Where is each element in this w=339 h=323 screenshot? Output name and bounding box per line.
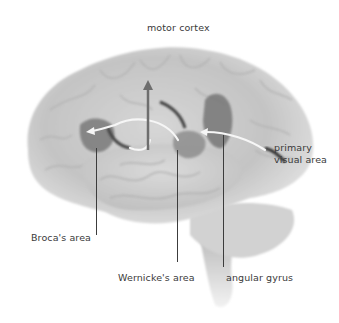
label-primary-visual-area-line1: primary (274, 142, 334, 154)
leader-line-wernickes-area (177, 150, 178, 262)
label-primary-visual-area: primary visual area (274, 142, 334, 166)
label-primary-visual-area-line2: visual area (274, 154, 334, 166)
label-angular-gyrus: angular gyrus (226, 272, 293, 283)
brain-diagram: motor cortex primary visual area Broca's… (0, 0, 339, 323)
label-wernickes-area: Wernicke's area (118, 272, 195, 283)
label-brocas-area: Broca's area (31, 232, 91, 243)
leader-line-brocas-area (96, 148, 97, 235)
label-motor-cortex: motor cortex (147, 22, 210, 33)
leader-line-angular-gyrus (223, 135, 224, 267)
